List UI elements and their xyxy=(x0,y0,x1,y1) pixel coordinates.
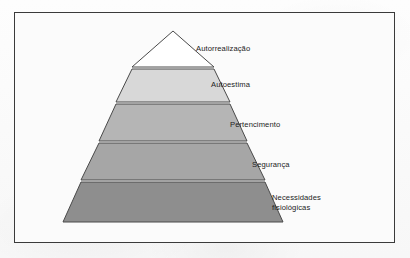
tier-label-seguranca: Segurança xyxy=(252,160,290,170)
pyramid-tier-seguranca[interactable] xyxy=(81,143,265,180)
pyramid-tier-necessidades-fisiologicas[interactable] xyxy=(63,182,283,222)
tier-label-autoestima: Autoestima xyxy=(211,80,250,90)
tier-label-pertencimento: Pertencimento xyxy=(230,120,280,130)
maslow-pyramid-diagram xyxy=(0,0,410,258)
pyramid-tier-pertencimento[interactable] xyxy=(99,104,247,141)
tier-label-necessidades-fisiologicas: Necessidades fisiológicas xyxy=(272,193,321,212)
tier-label-autorrealizacao: Autorrealização xyxy=(196,44,250,54)
